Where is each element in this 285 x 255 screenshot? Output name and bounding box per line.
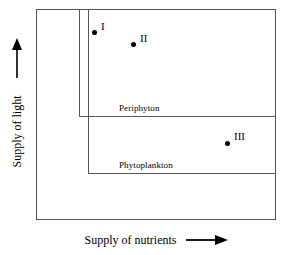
periphyton-left-boundary-line [79,9,80,116]
right-arrow-icon [186,233,228,247]
phytoplankton-bottom-boundary-line [88,173,276,174]
data-point-label-i: I [101,20,105,32]
data-point-iii [225,141,230,146]
phytoplankton-left-boundary-line [88,9,89,173]
data-point-label-iii: III [234,130,245,142]
zone-label-phytoplankton: Phytoplankton [119,160,173,171]
zone-label-periphyton: Periphyton [119,103,160,114]
data-point-label-ii: II [140,32,147,44]
y-axis-title: Supply of light [10,65,25,199]
data-point-i [92,30,97,35]
x-axis: Supply of nutrients [36,228,276,252]
plot-frame [36,9,276,220]
y-axis: Supply of light [0,38,34,214]
periphyton-bottom-boundary-line [79,116,276,117]
figure-container: Periphyton Phytoplankton I II III Supply… [0,0,285,255]
data-point-ii [131,42,136,47]
x-axis-title: Supply of nutrients [85,233,177,248]
